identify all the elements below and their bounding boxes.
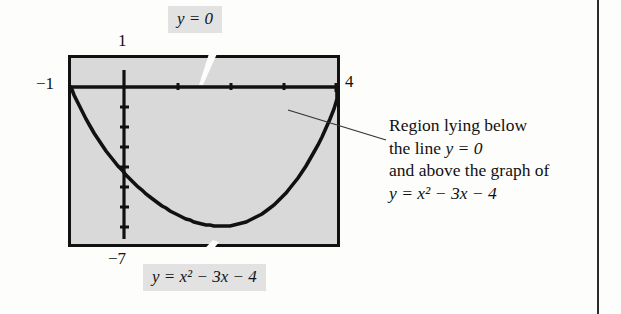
- annotation-line-2-math: y = 0: [445, 138, 482, 158]
- annotation-line-2: the line y = 0: [389, 137, 549, 160]
- figure-root: 1 −1 4 −7 y = 0 y = x² − 3x − 4 Region l…: [0, 0, 621, 314]
- annotation-line-1: Region lying below: [389, 114, 549, 137]
- annotation-line-4-math: y = x² − 3x − 4: [389, 182, 549, 205]
- axis-label-ymax: 1: [118, 31, 127, 51]
- callout-y-equals-zero: y = 0: [168, 6, 222, 33]
- axis-label-xmin: −1: [36, 74, 54, 94]
- annotation-line-2-prefix: the line: [389, 138, 445, 158]
- callout-y0-text: y = 0: [177, 9, 213, 28]
- callout-parabola-equation: y = x² − 3x − 4: [143, 264, 266, 291]
- page-margin-rule: [597, 0, 599, 314]
- axis-label-xmax: 4: [345, 72, 354, 92]
- annotation-line-3: and above the graph of: [389, 159, 549, 182]
- callout-parabola-text: y = x² − 3x − 4: [152, 267, 257, 286]
- calculator-plot-frame: [68, 55, 340, 247]
- axis-label-ymin: −7: [108, 249, 126, 269]
- region-annotation: Region lying below the line y = 0 and ab…: [389, 114, 549, 204]
